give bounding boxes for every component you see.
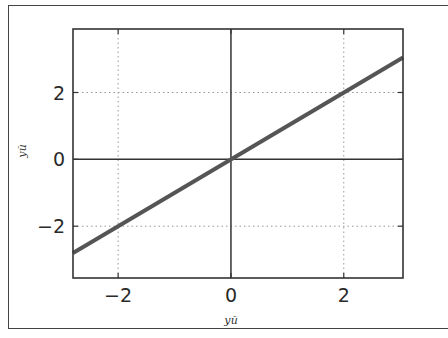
y-tick-label: 0 xyxy=(53,148,65,170)
data-series xyxy=(73,57,403,253)
x-axis-label: уй xyxy=(223,314,237,327)
x-tick-label: 0 xyxy=(225,284,237,306)
y-tick-labels: −202 xyxy=(37,82,65,238)
x-tick-label: 2 xyxy=(338,284,350,306)
series-line xyxy=(73,57,403,253)
y-axis-label: уй xyxy=(16,144,29,158)
y-tick-label: −2 xyxy=(37,215,65,237)
y-tick-label: 2 xyxy=(53,82,65,104)
x-tick-label: −2 xyxy=(104,284,132,306)
x-tick-labels: −202 xyxy=(104,284,350,306)
